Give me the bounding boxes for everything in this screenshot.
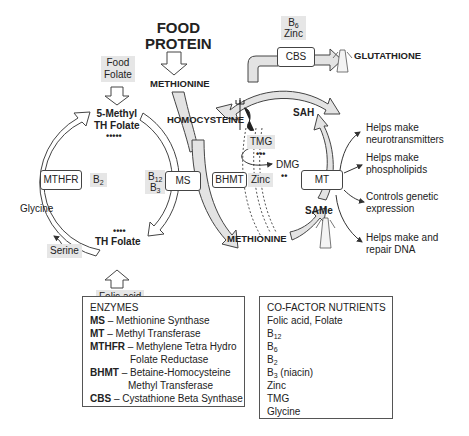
legend-item-ms: MS – Methionine Synthase <box>90 314 237 327</box>
outcome-arrow-genetic <box>344 190 364 202</box>
methionine-bottom-label: METHIONINE <box>227 233 287 245</box>
tmg-label: TMG <box>247 135 275 149</box>
methyl-folate-dots: ••••• <box>106 132 122 140</box>
th-folate-label: TH Folate <box>95 236 141 248</box>
mthfr-cofactor-b2: B2 <box>90 173 107 187</box>
legend-item-cbs: CBS – Cystathione Beta Synthase <box>90 392 237 405</box>
sah-label: SAH <box>293 107 314 119</box>
food-protein-title: FOODPROTEIN <box>145 20 212 52</box>
outcome-arrow-dna <box>336 195 362 242</box>
ms-cofactors: B12 B3 <box>145 170 165 194</box>
th-folate-dots: •••• <box>113 227 126 235</box>
outcome-genetic-expression: Controls geneticexpression <box>366 191 438 215</box>
folic-acid-arrow <box>105 270 129 288</box>
enzymes-legend-title: ENZYMES <box>90 301 237 314</box>
legend-item-mthfr-cont: Folate Reductase <box>90 353 237 366</box>
cofactor-item: Zinc <box>267 379 385 392</box>
methyl-th-folate-label: 5-MethylTH Folate <box>94 108 140 132</box>
tmg-dots: ••• <box>256 150 265 158</box>
cofactor-item: B12 <box>267 327 385 340</box>
cbs-enzyme-box: CBS <box>277 47 315 67</box>
ms-methionine-arrow <box>192 140 238 248</box>
food-folate-source: FoodFolate <box>101 56 135 82</box>
ms-enzyme-box: MS <box>165 171 201 191</box>
cbs-arrow <box>248 56 278 82</box>
glutathione-label: GLUTATHIONE <box>354 50 421 62</box>
glycine-label: Glycine <box>20 203 53 215</box>
cofactor-item: TMG <box>267 392 385 405</box>
legend-item-bhmt-cont: Methyl Transferase <box>90 379 237 392</box>
serine-label: Serine <box>47 244 82 258</box>
enzymes-legend: ENZYMES MS – Methionine Synthase MT – Me… <box>82 296 245 407</box>
cofactor-item: B6 <box>267 340 385 353</box>
outcome-arrow-phospho <box>344 165 362 173</box>
cofactor-item: Glycine <box>267 405 385 418</box>
outcome-neurotransmitters: Helps makeneurotransmitters <box>366 122 444 146</box>
dmg-label: DMG <box>276 159 299 171</box>
mt-enzyme-box: MT <box>301 170 343 190</box>
cofactors-legend-title: CO-FACTOR NUTRIENTS <box>267 301 385 314</box>
food-protein-arrow <box>161 52 187 75</box>
mthfr-enzyme-box: MTHFR <box>40 170 82 190</box>
angel-figure-same-icon <box>316 218 335 248</box>
cofactor-item: B3 (niacin) <box>267 366 385 379</box>
same-label: SAMe <box>305 205 333 217</box>
outcome-dna-repair: Helps make andrepair DNA <box>366 232 438 256</box>
dmg-dots: •• <box>281 172 287 180</box>
food-folate-arrow <box>105 87 129 105</box>
cbs-cofactors: B6 Zinc <box>281 16 306 40</box>
bhmt-cofactor-zinc: Zinc <box>248 173 273 187</box>
outcome-phospholipids: Helps makephospholipids <box>366 152 427 176</box>
outcome-arrow-neuro <box>340 132 360 170</box>
legend-item-mt: MT – Methyl Transferase <box>90 327 237 340</box>
cofactor-item: B2 <box>267 353 385 366</box>
methionine-top-label: METHIONINE <box>150 78 210 90</box>
legend-item-mthfr: MTHFR – Methylene Tetra Hydro <box>90 340 237 353</box>
bhmt-enzyme-box: BHMT <box>212 172 247 188</box>
cofactor-item: Folic acid, Folate <box>267 314 385 327</box>
cofactors-legend: CO-FACTOR NUTRIENTS Folic acid, Folate B… <box>259 296 393 419</box>
legend-item-bhmt: BHMT – Betaine-Homocysteine <box>90 366 237 379</box>
homocysteine-label: HOMOCYSTEINE <box>167 114 244 126</box>
